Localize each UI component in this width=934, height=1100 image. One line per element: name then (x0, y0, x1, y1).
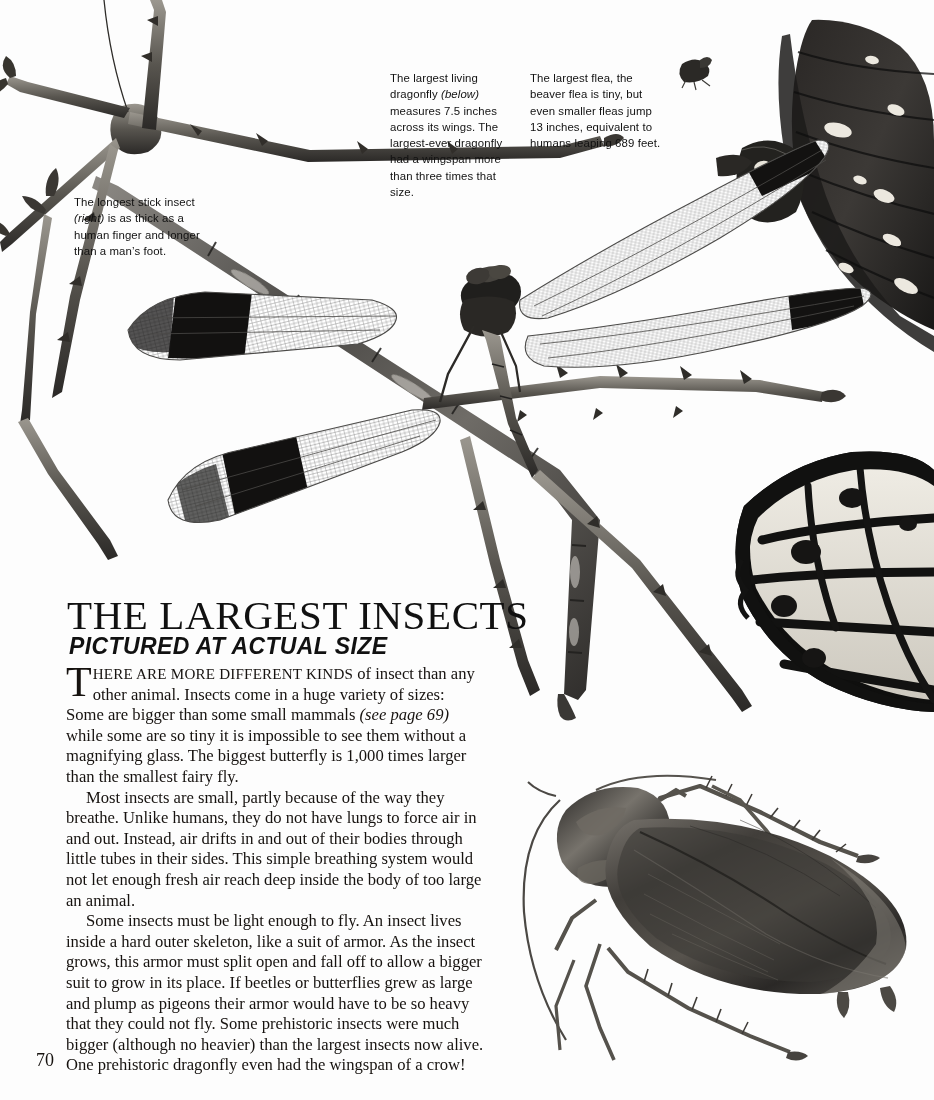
cockroach-illustration (524, 776, 907, 1061)
paragraph-1-part2: while some are so tiny it is impossible … (66, 726, 466, 786)
paragraph-1-cross-reference: (see page 69) (360, 705, 449, 724)
butterfly-illustration (716, 20, 934, 712)
caption-stick-insect: The longest stick insect (right) is as t… (74, 194, 202, 259)
paragraph-2: Most insects are small, partly because o… (66, 788, 484, 912)
caption-stick-insect-italic: (right) (74, 212, 104, 224)
book-page: The longest stick insect (right) is as t… (0, 0, 934, 1100)
paragraph-3: Some insects must be light enough to fly… (66, 911, 484, 1076)
caption-dragonfly-text-after: measures 7.5 inches across its wings. Th… (390, 105, 502, 198)
flea-illustration (679, 57, 712, 90)
page-subtitle: PICTURED AT ACTUAL SIZE (69, 633, 387, 659)
page-title: THE LARGEST INSECTS (67, 593, 529, 637)
caption-flea: The largest flea, the beaver flea is tin… (530, 70, 664, 151)
caption-stick-insect-text-before: The longest stick insect (74, 196, 195, 208)
paragraph-1: THERE ARE MORE DIFFERENT KINDS of insect… (66, 664, 484, 788)
article-body: THERE ARE MORE DIFFERENT KINDS of insect… (66, 664, 484, 1076)
page-number: 70 (36, 1050, 54, 1071)
caption-dragonfly: The largest living dragonfly (below) mea… (390, 70, 510, 200)
paragraph-1-smallcaps: HERE ARE MORE DIFFERENT KINDS (93, 666, 353, 682)
caption-dragonfly-italic: (below) (441, 88, 479, 100)
drop-cap: T (66, 664, 93, 699)
